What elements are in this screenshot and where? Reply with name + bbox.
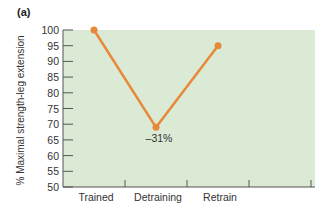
y-tick-label: 80 xyxy=(47,87,59,99)
y-tick-label: 65 xyxy=(47,134,59,146)
annotation-label: –31% xyxy=(146,132,173,144)
y-tick-label: 50 xyxy=(47,181,59,193)
y-tick-label: 85 xyxy=(47,71,59,83)
data-point xyxy=(91,27,98,34)
data-point xyxy=(153,124,160,131)
x-tick-label: Trained xyxy=(78,191,113,203)
y-tick-label: 95 xyxy=(47,40,59,52)
x-tick-label: Detraining xyxy=(134,191,182,203)
y-tick-label: 100 xyxy=(41,24,59,36)
line-chart: 50556065707580859095100TrainedDetraining… xyxy=(0,0,328,213)
y-tick-label: 60 xyxy=(47,150,59,162)
plot-area xyxy=(63,30,315,187)
y-tick-label: 70 xyxy=(47,118,59,130)
y-axis-label: % Maximal strength-leg extension xyxy=(15,35,26,185)
y-tick-label: 90 xyxy=(47,55,59,67)
x-tick-label: Retrain xyxy=(203,191,237,203)
y-tick-label: 75 xyxy=(47,103,59,115)
data-point xyxy=(215,42,222,49)
y-tick-label: 55 xyxy=(47,165,59,177)
